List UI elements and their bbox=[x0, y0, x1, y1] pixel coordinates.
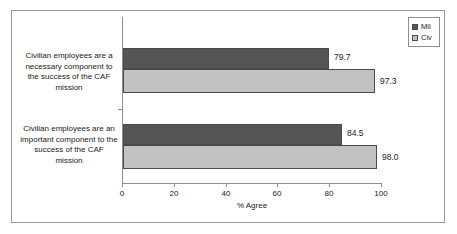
legend-label-mil: Mil bbox=[421, 22, 431, 31]
chart-container: Civilian employees are a necessary compo… bbox=[11, 10, 445, 223]
x-tick-label-40: 40 bbox=[211, 189, 241, 199]
category-label-important: Civilian employees are an important comp… bbox=[20, 124, 118, 166]
chart-legend: Mil Civ bbox=[408, 17, 440, 47]
axis-mid-tick bbox=[118, 109, 122, 110]
x-axis-line bbox=[122, 183, 381, 184]
legend-item-civ[interactable]: Civ bbox=[412, 32, 436, 43]
x-tick-100 bbox=[381, 183, 382, 187]
bar-civ-important[interactable] bbox=[123, 145, 377, 169]
category-label-necessary: Civilian employees are a necessary compo… bbox=[20, 51, 118, 93]
legend-label-civ: Civ bbox=[421, 33, 432, 42]
x-tick-label-20: 20 bbox=[159, 189, 189, 199]
x-tick-0 bbox=[122, 183, 123, 187]
bar-value-mil-necessary: 79.7 bbox=[334, 52, 351, 62]
bar-value-civ-important: 98.0 bbox=[382, 152, 399, 162]
bar-value-civ-necessary: 97.3 bbox=[380, 76, 397, 86]
x-tick-label-80: 80 bbox=[314, 189, 344, 199]
x-tick-label-100: 100 bbox=[366, 189, 396, 199]
x-tick-40 bbox=[226, 183, 227, 187]
legend-item-mil[interactable]: Mil bbox=[412, 21, 436, 32]
x-tick-20 bbox=[174, 183, 175, 187]
x-tick-label-60: 60 bbox=[262, 189, 292, 199]
x-tick-80 bbox=[329, 183, 330, 187]
bar-mil-important[interactable] bbox=[123, 124, 342, 145]
bar-value-mil-important: 84.5 bbox=[347, 128, 364, 138]
x-axis-title: % Agree bbox=[122, 201, 382, 210]
bar-civ-necessary[interactable] bbox=[123, 69, 375, 93]
axis-top-tick bbox=[122, 17, 123, 21]
x-tick-60 bbox=[277, 183, 278, 187]
plot-area: 0 20 40 60 80 100 79.7 97.3 84.5 98.0 bbox=[122, 21, 392, 193]
bar-mil-necessary[interactable] bbox=[123, 48, 329, 69]
legend-swatch-civ-icon bbox=[412, 35, 418, 41]
legend-swatch-mil-icon bbox=[412, 24, 418, 30]
x-tick-label-0: 0 bbox=[107, 189, 137, 199]
